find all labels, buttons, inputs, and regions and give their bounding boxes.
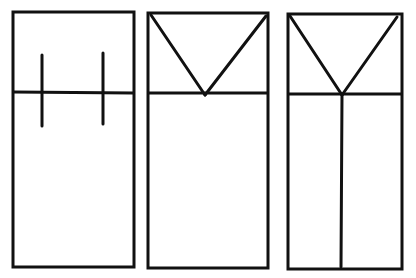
panel-2-v-right-arm xyxy=(205,16,266,95)
diagram-canvas xyxy=(0,0,416,278)
panel-3-center-vertical xyxy=(341,95,342,267)
panel-2 xyxy=(148,13,268,268)
panel-3-v-left-arm xyxy=(290,16,342,95)
panel-3 xyxy=(288,14,402,269)
panel-2-frame xyxy=(148,13,268,268)
panel-1-horizontal-divider xyxy=(14,92,133,93)
panel-1-frame xyxy=(13,12,134,267)
panel-2-v-left-arm xyxy=(151,15,205,95)
panel-3-v-right-arm xyxy=(342,17,397,95)
panel-3-frame xyxy=(288,14,402,269)
panel-1 xyxy=(13,12,134,267)
